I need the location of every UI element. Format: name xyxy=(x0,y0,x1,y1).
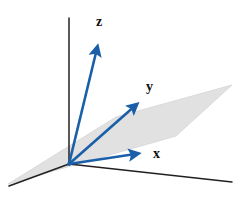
vector-diagram-canvas xyxy=(0,0,233,198)
axis-label-y: y xyxy=(146,80,153,94)
origin-point xyxy=(67,162,71,166)
right-axis-line xyxy=(69,164,232,182)
vector-diagram-figure: z y x xyxy=(0,0,233,198)
axis-label-x: x xyxy=(153,147,160,161)
axis-label-z: z xyxy=(96,15,102,29)
